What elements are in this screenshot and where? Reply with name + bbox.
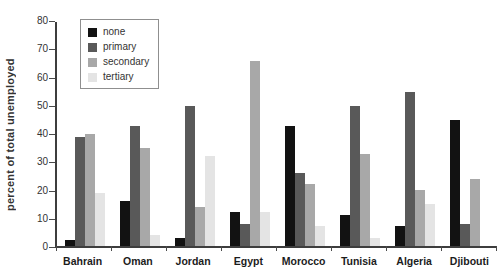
x-category-label-tunisia: Tunisia — [331, 252, 386, 270]
legend-swatch-none — [88, 28, 97, 37]
y-tick-label: 10 — [26, 214, 48, 224]
bar-djibouti-secondary — [470, 179, 480, 246]
x-tick-mark — [276, 246, 277, 251]
bar-algeria-primary — [405, 92, 415, 246]
legend-item-tertiary: tertiary — [88, 71, 149, 83]
x-tick-mark — [331, 246, 332, 251]
legend-swatch-secondary — [88, 58, 97, 67]
bar-chart: percent of total unemployed 010203040506… — [0, 0, 504, 274]
bar-egypt-secondary — [250, 61, 260, 246]
bar-egypt-none — [230, 212, 240, 246]
y-tick-label: 60 — [26, 73, 48, 83]
x-category-label-jordan: Jordan — [166, 252, 221, 270]
bar-group-algeria — [387, 22, 442, 246]
bar-jordan-tertiary — [205, 156, 215, 246]
x-axis-category-labels: BahrainOmanJordanEgyptMoroccoTunisiaAlge… — [55, 252, 497, 270]
x-category-label-algeria: Algeria — [387, 252, 442, 270]
bar-morocco-secondary — [305, 184, 315, 246]
bar-group-jordan — [167, 22, 222, 246]
bar-group-djibouti — [442, 22, 497, 246]
bar-algeria-tertiary — [425, 204, 435, 246]
legend-label-tertiary: tertiary — [103, 71, 134, 83]
bar-jordan-none — [175, 238, 185, 246]
x-tick-mark — [496, 246, 497, 251]
legend-swatch-tertiary — [88, 73, 97, 82]
bar-morocco-primary — [295, 173, 305, 246]
x-tick-mark — [56, 246, 57, 251]
bar-egypt-tertiary — [260, 212, 270, 246]
bar-tunisia-secondary — [360, 154, 370, 246]
bar-oman-primary — [130, 126, 140, 246]
legend-label-primary: primary — [103, 41, 136, 53]
bar-algeria-none — [395, 226, 405, 246]
y-tick-label: 0 — [26, 242, 48, 252]
y-tick-label: 50 — [26, 101, 48, 111]
x-tick-mark — [441, 246, 442, 251]
y-tick-label: 80 — [26, 16, 48, 26]
legend-item-primary: primary — [88, 41, 149, 53]
bar-morocco-tertiary — [315, 226, 325, 246]
bar-morocco-none — [285, 126, 295, 246]
bar-tunisia-tertiary — [370, 238, 380, 246]
y-axis-tick-labels: 01020304050607080 — [26, 22, 48, 248]
legend-item-secondary: secondary — [88, 56, 149, 68]
bar-bahrain-secondary — [85, 134, 95, 246]
x-tick-mark — [386, 246, 387, 251]
bar-group-morocco — [277, 22, 332, 246]
y-tick-label: 70 — [26, 44, 48, 54]
bar-algeria-secondary — [415, 190, 425, 246]
x-tick-mark — [166, 246, 167, 251]
y-tick-label: 20 — [26, 186, 48, 196]
bar-bahrain-primary — [75, 137, 85, 246]
plot-area: noneprimarysecondarytertiary — [55, 22, 497, 248]
x-category-label-egypt: Egypt — [221, 252, 276, 270]
x-tick-mark — [111, 246, 112, 251]
bar-jordan-primary — [185, 106, 195, 246]
legend-label-secondary: secondary — [103, 56, 149, 68]
legend-label-none: none — [103, 26, 125, 38]
y-tick-label: 40 — [26, 129, 48, 139]
x-tick-mark — [221, 246, 222, 251]
x-category-label-morocco: Morocco — [276, 252, 331, 270]
bar-oman-secondary — [140, 148, 150, 246]
bar-bahrain-tertiary — [95, 193, 105, 246]
bar-oman-none — [120, 201, 130, 246]
bar-group-tunisia — [332, 22, 387, 246]
y-tick-label: 30 — [26, 157, 48, 167]
bar-group-egypt — [222, 22, 277, 246]
bar-egypt-primary — [240, 224, 250, 246]
bar-oman-tertiary — [150, 235, 160, 246]
x-category-label-djibouti: Djibouti — [442, 252, 497, 270]
legend-swatch-primary — [88, 43, 97, 52]
legend: noneprimarysecondarytertiary — [80, 19, 159, 89]
x-category-label-bahrain: Bahrain — [55, 252, 110, 270]
bar-tunisia-primary — [350, 106, 360, 246]
bar-jordan-secondary — [195, 207, 205, 246]
bar-tunisia-none — [340, 215, 350, 246]
x-category-label-oman: Oman — [110, 252, 165, 270]
bar-djibouti-primary — [460, 224, 470, 246]
y-axis-title: percent of total unemployed — [2, 22, 18, 248]
bar-djibouti-none — [450, 120, 460, 246]
legend-item-none: none — [88, 26, 149, 38]
